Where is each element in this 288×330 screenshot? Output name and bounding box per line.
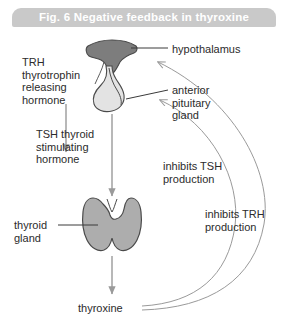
label-inhibits-tsh: inhibits TSH production	[163, 160, 222, 185]
figure-negative-feedback-thyroxine: Fig. 6 Negative feedback in thyroxine	[0, 0, 288, 330]
label-inhibits-trh: inhibits TRH production	[205, 208, 265, 233]
anterior-pituitary-gland-shape	[93, 62, 124, 112]
label-tsh: TSH thyroid stimulating hormone	[36, 128, 94, 166]
label-trh: TRH thyrotrophin releasing hormone	[22, 56, 80, 106]
label-hypothalamus: hypothalamus	[172, 43, 241, 56]
label-thyroxine: thyroxine	[78, 302, 123, 315]
label-thyroid-gland: thyroid gland	[14, 219, 47, 244]
thyroid-gland-shape	[83, 198, 142, 251]
leader-line-anterior-pituitary	[126, 90, 168, 99]
feedback-arrow-inhibits-tsh	[142, 100, 236, 306]
label-anterior-pituitary: anterior pituitary gland	[172, 84, 211, 122]
